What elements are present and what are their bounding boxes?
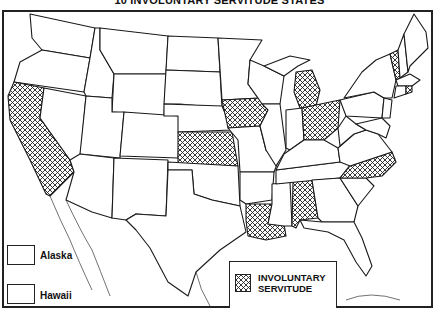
alaska-inset-box	[7, 245, 35, 265]
state-rhode-island	[406, 86, 412, 94]
state-mississippi	[268, 182, 292, 226]
hatch-pattern-icon	[236, 275, 251, 292]
state-wyoming	[112, 74, 166, 116]
state-montana	[100, 28, 168, 74]
state-maine	[404, 14, 428, 72]
state-michigan	[294, 70, 320, 108]
state-north-dakota	[166, 36, 220, 72]
state-new-mexico	[112, 158, 168, 220]
state-south-dakota	[164, 70, 222, 108]
legend-box: INVOLUNTARY SERVITUDE	[229, 261, 337, 308]
hawaii-inset-box	[7, 284, 35, 304]
legend-label: INVOLUNTARY SERVITUDE	[258, 272, 326, 294]
state-connecticut	[394, 86, 406, 98]
state-kansas	[178, 132, 238, 166]
state-new-jersey	[382, 98, 392, 118]
us-map	[0, 0, 439, 310]
alaska-label: Alaska	[40, 250, 72, 261]
state-colorado	[120, 112, 180, 158]
state-arizona	[66, 154, 114, 218]
state-arkansas	[240, 172, 274, 204]
legend-line-1: INVOLUNTARY	[258, 272, 326, 283]
state-new-york	[344, 54, 396, 98]
legend-hatch-swatch	[235, 274, 251, 292]
hawaii-label: Hawaii	[40, 290, 72, 301]
legend-line-2: SERVITUDE	[258, 283, 326, 294]
